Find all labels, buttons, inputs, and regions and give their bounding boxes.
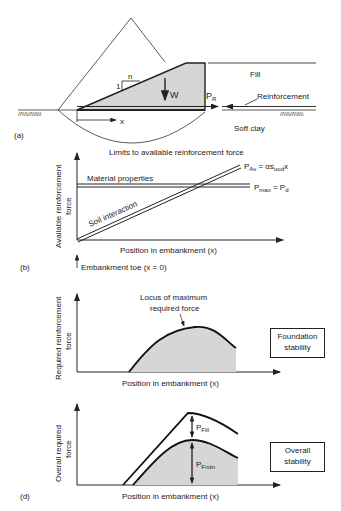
panel-a: //\\\\//\\\\\\ //\\\\//\\\\\\ n 1 W PR R…	[14, 18, 316, 143]
pav-sub2: uod	[274, 166, 284, 172]
slope-n: n	[128, 72, 132, 81]
d-ylabel-1: Overall required	[54, 425, 63, 482]
panel-c: Required reinforcement force Locus of ma…	[54, 293, 280, 388]
pfill-sub: Fill	[201, 427, 209, 433]
b-ylabel-1: Available reinforcement	[54, 164, 63, 248]
overall-box-line-1: Overall	[274, 445, 321, 456]
diagram-canvas: //\\\\//\\\\\\ //\\\\//\\\\\\ n 1 W PR R…	[0, 0, 341, 511]
x-axis-label: x	[120, 117, 124, 126]
toe-label: Embankment toe (x = 0)	[81, 263, 167, 272]
overall-stability-box: Overall stability	[270, 442, 325, 472]
overall-box-line-2: stability	[274, 456, 321, 467]
panel-a-label: (a)	[14, 131, 24, 140]
ground-hatch-left: //\\\\//\\\\\\	[18, 111, 42, 117]
c-xlabel: Position in embankment (x)	[122, 379, 219, 388]
svg-text:PFill: PFill	[196, 423, 209, 433]
d-xlabel: Position in embankment (x)	[122, 492, 219, 501]
pfndn-sub: Fndn	[201, 464, 215, 470]
svg-text:Pmax = Pd: Pmax = Pd	[254, 183, 288, 193]
foundation-box-line-2: stability	[274, 342, 321, 353]
panel-b: Limits to available reinforcement force …	[20, 148, 288, 272]
ground-hatch-right: //\\\\//\\\\\\	[280, 111, 304, 117]
foundation-stability-box: Foundation stability	[270, 328, 325, 358]
c-ylabel-2: force	[64, 332, 73, 350]
slope-1: 1	[116, 82, 121, 91]
svg-text:PR: PR	[206, 91, 217, 102]
material-label: Material properties	[87, 174, 153, 183]
b-ylabel-2: force	[64, 197, 73, 215]
foundation-box-line-1: Foundation	[274, 331, 321, 342]
panel-b-title: Limits to available reinforcement force	[109, 148, 244, 157]
reinforcement-label: Reinforcement	[257, 92, 310, 101]
b-xlabel: Position in embankment (x)	[120, 246, 217, 255]
c-ylabel-1: Required reinforcement	[54, 296, 63, 380]
panel-d: Overall required force PFill PFndn Posit…	[20, 404, 280, 501]
pmax-sub2: d	[285, 187, 288, 193]
pr-sub: R	[212, 96, 217, 102]
panel-d-label: (d)	[20, 492, 30, 501]
pav-sub: Av	[249, 166, 256, 172]
weight-label: W	[170, 90, 179, 100]
pav-tail: x	[284, 162, 288, 171]
d-ylabel-2: force	[64, 440, 73, 458]
locus-line-2: required force	[150, 304, 200, 313]
pav-eq: = αs	[256, 162, 274, 171]
svg-text:PAv = αsuodx: PAv = αsuodx	[244, 162, 288, 172]
fill-label: Fill	[250, 70, 260, 79]
pmax-sub: max	[259, 187, 270, 193]
pmax-eq: = P	[271, 183, 285, 192]
panel-b-label: (b)	[20, 263, 30, 272]
soft-clay-label: Soft clay	[234, 124, 265, 133]
locus-line-1: Locus of maximum	[140, 293, 207, 302]
